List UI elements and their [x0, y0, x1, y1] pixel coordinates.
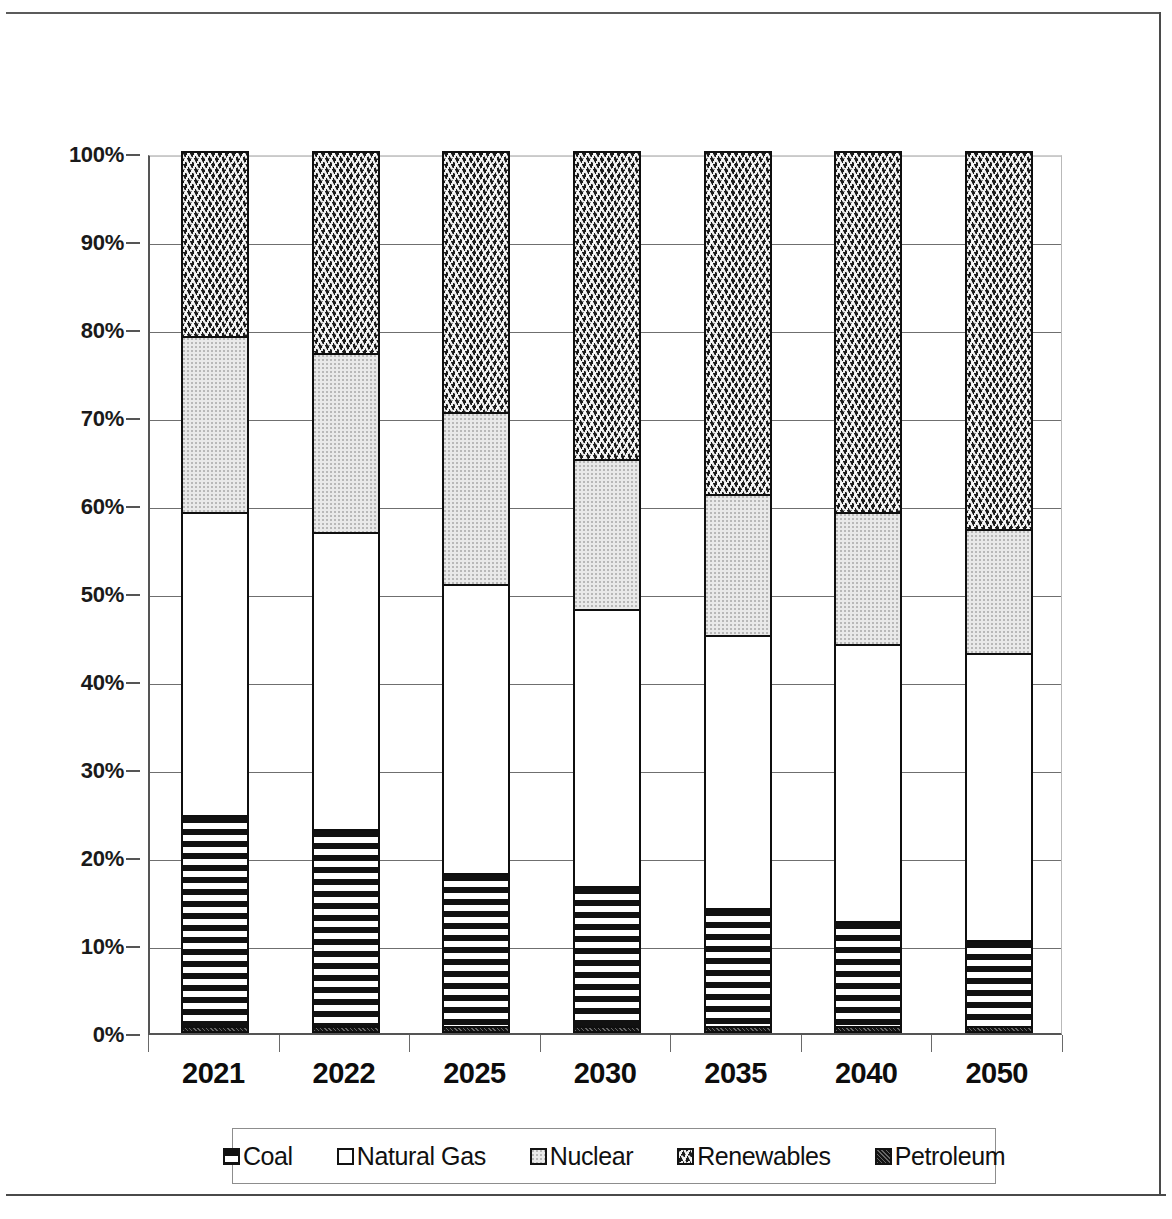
- y-axis-tick-mark: [126, 1034, 140, 1036]
- y-axis-tick-label: 20%: [81, 846, 124, 872]
- y-axis-tick-label: 40%: [81, 670, 124, 696]
- bar-segment-nuclear[interactable]: [442, 412, 510, 586]
- bar-segment-renewables[interactable]: [704, 151, 772, 496]
- legend-swatch-icon: [875, 1148, 892, 1165]
- y-axis-tick-mark: [126, 330, 140, 332]
- legend-label: Natural Gas: [357, 1142, 486, 1171]
- y-axis-tick-mark: [126, 770, 140, 772]
- bar-segment-natural-gas[interactable]: [573, 609, 641, 888]
- legend-label: Petroleum: [895, 1142, 1005, 1171]
- bar-segment-natural-gas[interactable]: [965, 653, 1033, 943]
- x-axis-tick-mark: [801, 1035, 802, 1052]
- x-axis-tick-mark: [1062, 1035, 1063, 1052]
- bar-2021[interactable]: [181, 153, 249, 1033]
- x-axis-tick-mark: [540, 1035, 541, 1052]
- y-axis-tick-label: 10%: [81, 934, 124, 960]
- x-axis-tick-mark: [279, 1035, 280, 1052]
- x-axis-tick-label: 2025: [443, 1057, 506, 1090]
- x-axis-tick-mark: [148, 1035, 149, 1052]
- bar-segment-coal[interactable]: [312, 829, 380, 1028]
- y-axis-tick-label: 60%: [81, 494, 124, 520]
- bar-segment-renewables[interactable]: [442, 151, 510, 414]
- y-axis-tick-label: 90%: [81, 230, 124, 256]
- bar-segment-coal[interactable]: [834, 921, 902, 1028]
- x-axis-tick-label: 2022: [313, 1057, 376, 1090]
- legend-label: Coal: [243, 1142, 293, 1171]
- plot-area: [148, 155, 1062, 1035]
- y-axis-tick-mark: [126, 418, 140, 420]
- bar-segment-coal[interactable]: [573, 886, 641, 1028]
- x-axis-tick-label: 2040: [835, 1057, 898, 1090]
- x-axis-tick-label: 2050: [965, 1057, 1028, 1090]
- y-axis-tick-label: 80%: [81, 318, 124, 344]
- legend-label: Renewables: [697, 1142, 831, 1171]
- bar-segment-nuclear[interactable]: [834, 512, 902, 646]
- chart-title: [0, 0, 1160, 3]
- legend-item-coal[interactable]: Coal: [223, 1142, 293, 1171]
- bar-segment-renewables[interactable]: [965, 151, 1033, 531]
- y-axis-tick-label: 50%: [81, 582, 124, 608]
- y-axis-tick-mark: [126, 858, 140, 860]
- bar-segment-nuclear[interactable]: [573, 459, 641, 611]
- y-axis: 0%10%20%30%40%50%60%70%80%90%100%: [0, 155, 148, 1035]
- bar-segment-natural-gas[interactable]: [442, 584, 510, 875]
- y-axis-tick-mark: [126, 154, 140, 156]
- bar-2035[interactable]: [704, 153, 772, 1033]
- bar-segment-natural-gas[interactable]: [181, 512, 249, 818]
- x-axis-tick-mark: [670, 1035, 671, 1052]
- legend-item-petroleum[interactable]: Petroleum: [875, 1142, 1005, 1171]
- bar-segment-nuclear[interactable]: [181, 336, 249, 514]
- x-axis-tick-label: 2035: [704, 1057, 767, 1090]
- bar-2030[interactable]: [573, 153, 641, 1033]
- x-axis-tick-label: 2030: [574, 1057, 637, 1090]
- y-axis-tick-mark: [126, 946, 140, 948]
- legend-swatch-icon: [223, 1148, 240, 1165]
- legend-label: Nuclear: [550, 1142, 633, 1171]
- bar-segment-renewables[interactable]: [834, 151, 902, 514]
- bar-segment-nuclear[interactable]: [704, 494, 772, 637]
- y-axis-tick-label: 0%: [93, 1022, 124, 1048]
- y-axis-tick-label: 30%: [81, 758, 124, 784]
- x-axis: 2021202220252030203520402050: [148, 1035, 1062, 1125]
- bar-segment-natural-gas[interactable]: [704, 635, 772, 910]
- x-axis-tick-mark: [409, 1035, 410, 1052]
- bar-segment-nuclear[interactable]: [312, 353, 380, 534]
- stacked-bar-chart: 0%10%20%30%40%50%60%70%80%90%100% 202120…: [0, 0, 1172, 1219]
- y-axis-tick-mark: [126, 506, 140, 508]
- chart-legend: CoalNatural GasNuclearRenewablesPetroleu…: [232, 1128, 996, 1184]
- bar-segment-natural-gas[interactable]: [834, 644, 902, 923]
- y-axis-tick-label: 100%: [69, 142, 124, 168]
- legend-item-natural-gas[interactable]: Natural Gas: [337, 1142, 486, 1171]
- y-axis-tick-label: 70%: [81, 406, 124, 432]
- bar-2040[interactable]: [834, 153, 902, 1033]
- bar-segment-renewables[interactable]: [181, 151, 249, 338]
- y-axis-tick-mark: [126, 594, 140, 596]
- bar-2050[interactable]: [965, 153, 1033, 1033]
- bar-segment-coal[interactable]: [704, 908, 772, 1028]
- y-axis-tick-mark: [126, 242, 140, 244]
- bar-2022[interactable]: [312, 153, 380, 1033]
- x-axis-tick-label: 2021: [182, 1057, 245, 1090]
- bar-segment-renewables[interactable]: [573, 151, 641, 461]
- legend-item-nuclear[interactable]: Nuclear: [530, 1142, 633, 1171]
- bar-2025[interactable]: [442, 153, 510, 1033]
- x-axis-tick-mark: [931, 1035, 932, 1052]
- bar-segment-coal[interactable]: [181, 815, 249, 1027]
- legend-swatch-icon: [677, 1148, 694, 1165]
- legend-swatch-icon: [337, 1148, 354, 1165]
- legend-item-renewables[interactable]: Renewables: [677, 1142, 831, 1171]
- bar-segment-coal[interactable]: [965, 940, 1033, 1027]
- bar-segment-renewables[interactable]: [312, 151, 380, 355]
- bar-segment-coal[interactable]: [442, 873, 510, 1028]
- legend-swatch-icon: [530, 1148, 547, 1165]
- bar-segment-natural-gas[interactable]: [312, 532, 380, 831]
- bar-segment-nuclear[interactable]: [965, 529, 1033, 654]
- y-axis-tick-mark: [126, 682, 140, 684]
